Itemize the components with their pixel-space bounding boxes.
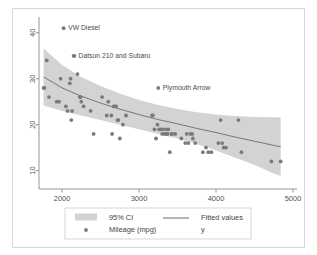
svg-text:40: 40	[28, 29, 37, 37]
svg-text:Fitted values: Fitted values	[201, 213, 243, 222]
scatter-plot: 200030004000500010203040 VW DieselDatsun…	[13, 9, 304, 247]
svg-text:y: y	[201, 225, 205, 234]
top-edge-artifact	[22, 0, 82, 8]
svg-text:5000: 5000	[285, 194, 302, 203]
svg-text:3000: 3000	[131, 194, 148, 203]
svg-text:Datsun 210 and Subaru: Datsun 210 and Subaru	[79, 52, 151, 59]
svg-text:VW Diesel: VW Diesel	[68, 24, 100, 31]
svg-text:95% CI: 95% CI	[109, 213, 133, 222]
chart-screenshot: 200030004000500010203040 VW DieselDatsun…	[0, 0, 317, 255]
confidence-band	[44, 48, 281, 176]
svg-text:30: 30	[28, 75, 37, 83]
svg-text:10: 10	[28, 166, 37, 174]
svg-text:Mileage (mpg): Mileage (mpg)	[109, 225, 156, 234]
svg-text:Plymouth Arrow: Plymouth Arrow	[163, 84, 211, 92]
chart-card: 200030004000500010203040 VW DieselDatsun…	[12, 8, 305, 248]
svg-text:4000: 4000	[208, 194, 225, 203]
chart-legend[interactable]: 95% CIFitted valuesMileage (mpg)y	[65, 208, 251, 239]
svg-text:2000: 2000	[54, 194, 71, 203]
svg-text:20: 20	[28, 121, 37, 129]
